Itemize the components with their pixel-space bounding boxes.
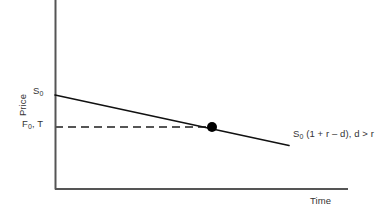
x-axis-title: Time (310, 196, 331, 206)
intersection-point-marker (207, 122, 217, 132)
f0t-tail: , T (32, 118, 43, 129)
y-tick-label-s0: S0 (33, 86, 43, 97)
curve-annotation: S0 (1 + r – d), d > r (293, 129, 374, 140)
annotation-tail: (1 + r – d), d > r (303, 128, 374, 139)
forward-price-curve (55, 95, 289, 146)
chart-plot-area (0, 0, 389, 220)
y-tick-label-f0t: F0, T (22, 119, 43, 130)
s0-subscript: 0 (39, 90, 43, 97)
chart-figure: Price S0 F0, T Time S0 (1 + r – d), d > … (0, 0, 389, 220)
